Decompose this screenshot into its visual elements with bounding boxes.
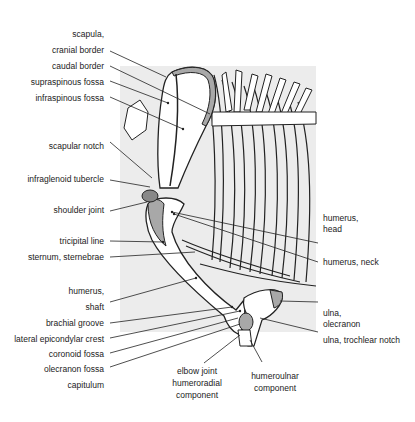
vertebrae [212,112,316,126]
cervical-vertebra [124,100,148,140]
label-capitulum: capitulum [68,380,104,390]
label-sternum: sternum, sternebrae [28,252,104,262]
label-humerus-head-1: humerus, [323,213,358,223]
anatomy-diagram: scapula, cranial border caudal border su… [0,0,415,422]
label-olecranon-fossa: olecranon fossa [44,364,104,374]
label-shoulder-joint: shoulder joint [53,205,104,215]
label-coronoid-fossa: coronoid fossa [49,349,104,359]
label-humerus-head-2: head [323,224,342,234]
label-supraspinous-fossa: supraspinous fossa [31,77,104,87]
label-shaft: shaft [86,302,104,312]
label-humeroulnar: humeroulnar [243,371,307,381]
label-caudal-border: caudal border [52,61,104,71]
label-lateral-epicondylar-crest: lateral epicondylar crest [14,334,104,344]
spinous-processes [222,70,312,118]
shoulder-joint-shape [142,190,158,202]
label-cranial-border: cranial border [52,45,104,55]
label-humerus-neck: humerus, neck [323,257,379,267]
label-ulna-olecranon-2: olecranon [323,319,360,329]
label-humeroradial-component: component [162,390,232,400]
label-tricipital-line: tricipital line [60,236,104,246]
label-elbow-joint: elbow joint [162,366,232,376]
label-infraspinous-fossa: infraspinous fossa [35,93,104,103]
radius-bone [238,330,252,346]
scapula-bone [158,67,216,188]
elbow-cartilage [239,313,253,331]
label-humerus: humerus, [69,286,104,296]
label-brachial-groove: brachial groove [46,318,104,328]
label-ulna-trochlear-notch: ulna, trochlear notch [323,335,400,345]
label-scapular-notch: scapular notch [49,141,104,151]
label-humeroulnar-component: component [243,383,307,393]
label-infraglenoid-tubercle: infraglenoid tubercle [27,174,104,184]
label-humeroradial: humeroradial [162,378,232,388]
label-scapula: scapula, [72,29,104,39]
label-ulna-olecranon-1: ulna, [323,308,341,318]
